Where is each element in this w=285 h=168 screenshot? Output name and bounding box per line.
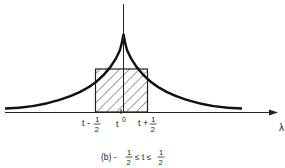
- caption-frac2-den: 2: [159, 158, 163, 167]
- axis-arrow-icon: [269, 110, 278, 116]
- tick-left-prefix: t -: [82, 118, 90, 128]
- tick-left-num: 1: [95, 115, 100, 124]
- tick-center-t: t: [116, 119, 119, 129]
- caption-prefix: (b) -: [101, 152, 117, 162]
- caption-mid: ≤ t ≤: [135, 152, 152, 162]
- tick-center-zero: 0: [122, 116, 126, 123]
- caption-frac1-num: 1: [127, 148, 131, 157]
- tick-right-num: 1: [151, 115, 156, 124]
- diagram-canvas: λ t - 1 2 t 0 t + 1 2 (b) - 1 2 ≤ t ≤ 1 …: [0, 0, 285, 168]
- tick-left-den: 2: [95, 125, 100, 134]
- tick-right-prefix: t +: [138, 118, 148, 128]
- x-axis-label: λ: [279, 122, 284, 133]
- caption-frac1-den: 2: [127, 158, 131, 167]
- caption-frac2-num: 1: [159, 148, 163, 157]
- tick-right-den: 2: [151, 125, 156, 134]
